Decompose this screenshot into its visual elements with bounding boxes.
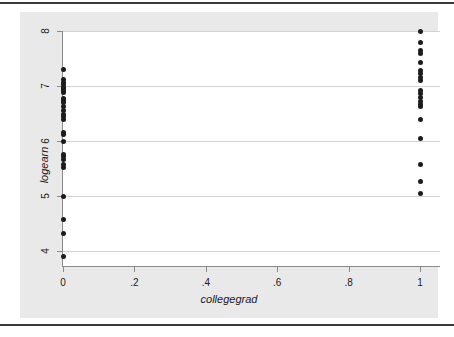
scatter-plot-area: 45678 0.2.4.6.81	[62, 31, 440, 267]
x-tick-mark	[349, 267, 350, 272]
data-point	[61, 132, 66, 137]
y-axis-title: logearn	[38, 147, 50, 184]
y-tick-label: 8	[41, 23, 51, 39]
x-tick-mark	[420, 267, 421, 272]
x-tick-label: 1	[408, 277, 432, 288]
y-tick-label: 4	[41, 243, 51, 259]
data-point	[418, 104, 423, 109]
data-point	[418, 191, 423, 196]
x-tick-label: .4	[194, 277, 218, 288]
x-tick-mark	[134, 267, 135, 272]
x-tick-label: .8	[337, 277, 361, 288]
x-tick-label: 0	[51, 277, 75, 288]
data-point	[418, 136, 423, 141]
gridline-y-8	[63, 31, 440, 32]
screenshot-page: logearn collegegrad 45678 0.2.4.6.81	[0, 0, 454, 337]
gridline-y-5	[63, 196, 440, 197]
y-tick-label: 5	[41, 188, 51, 204]
x-tick-label: .6	[265, 277, 289, 288]
data-point	[61, 254, 66, 259]
data-point	[418, 162, 423, 167]
data-point	[418, 29, 423, 34]
x-tick-mark	[277, 267, 278, 272]
x-tick-mark	[63, 267, 64, 272]
gridline-y-4	[63, 251, 440, 252]
data-point	[61, 90, 66, 95]
data-point	[61, 194, 66, 199]
gridline-y-6	[63, 141, 440, 142]
data-point	[61, 231, 66, 236]
data-point	[418, 51, 423, 56]
y-tick-label: 7	[41, 78, 51, 94]
data-point	[418, 117, 423, 122]
data-point	[418, 179, 423, 184]
data-point	[61, 117, 66, 122]
x-tick-mark	[206, 267, 207, 272]
data-point	[418, 78, 423, 83]
y-tick-mark	[57, 251, 62, 252]
data-point	[418, 60, 423, 65]
page-rule-top	[0, 2, 454, 4]
stata-graph-region: logearn collegegrad 45678 0.2.4.6.81	[20, 12, 438, 318]
data-point	[61, 67, 66, 72]
x-axis-title: collegegrad	[20, 293, 438, 305]
gridline-y-7	[63, 86, 440, 87]
data-point	[61, 217, 66, 222]
x-tick-label: .2	[122, 277, 146, 288]
data-point	[418, 40, 423, 45]
data-point	[61, 139, 66, 144]
y-tick-label: 6	[41, 133, 51, 149]
page-rule-bottom	[0, 324, 454, 326]
data-point	[61, 165, 66, 170]
y-tick-mark	[57, 31, 62, 32]
